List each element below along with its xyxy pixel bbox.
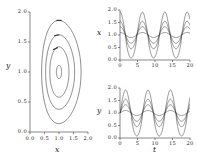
phase-portrait-x-axis-label: x <box>55 146 59 154</box>
phase-ytick-0.0: 0.0 <box>2 129 27 134</box>
phase-portrait-panel: 0.00.51.01.52.0 0.00.51.01.52.0 y x <box>0 0 98 162</box>
x-timeseries-xtick-15: 15 <box>167 63 179 68</box>
phase-xtick-1.5: 1.5 <box>67 136 81 141</box>
phase-ytick-1.5: 1.5 <box>2 39 27 44</box>
x-timeseries-xtick-20: 20 <box>184 63 196 68</box>
y-timeseries-ytick-0.0: 0.0 <box>95 135 117 140</box>
x-timeseries-ytick-1.5: 1.5 <box>95 20 117 25</box>
y-timeseries-xtick-20: 20 <box>184 141 196 146</box>
x-timeseries-xtick-0: 0 <box>114 63 126 68</box>
y-timeseries-xtick-0: 0 <box>114 141 126 146</box>
y-timeseries-ytick-2.0: 2.0 <box>95 85 117 90</box>
y-timeseries-xtick-15: 15 <box>167 141 179 146</box>
phase-ytick-2.0: 2.0 <box>2 9 27 14</box>
phase-ytick-0.5: 0.5 <box>2 99 27 104</box>
y-timeseries-axes <box>95 78 197 162</box>
y-timeseries-y-axis-label: y <box>97 107 101 115</box>
phase-portrait-y-axis-label: y <box>6 62 10 70</box>
phase-ytick-1.0: 1.0 <box>2 69 27 74</box>
phase-xtick-0.5: 0.5 <box>38 136 52 141</box>
figure-root: 0.00.51.01.52.0 0.00.51.01.52.0 y x 0.00… <box>0 0 197 162</box>
x-timeseries-ytick-2.0: 2.0 <box>95 7 117 12</box>
x-timeseries-y-axis-label: x <box>97 29 101 37</box>
y-timeseries-ytick-1.5: 1.5 <box>95 98 117 103</box>
phase-xtick-1.0: 1.0 <box>52 136 66 141</box>
y-timeseries-ytick-0.5: 0.5 <box>95 123 117 128</box>
y-timeseries-x-axis-label: t <box>153 146 156 154</box>
x-timeseries-ytick-0.0: 0.0 <box>95 57 117 62</box>
x-timeseries-xtick-5: 5 <box>132 63 144 68</box>
x-timeseries-xtick-10: 10 <box>149 63 161 68</box>
phase-xtick-0.0: 0.0 <box>23 136 37 141</box>
phase-xtick-2.0: 2.0 <box>81 136 95 141</box>
x-timeseries-ytick-0.5: 0.5 <box>95 45 117 50</box>
x-timeseries-panel: 0.00.51.01.52.0 05101520 x <box>95 0 197 80</box>
y-timeseries-xtick-5: 5 <box>132 141 144 146</box>
y-timeseries-panel: 0.00.51.01.52.0 05101520 y t <box>95 78 197 162</box>
